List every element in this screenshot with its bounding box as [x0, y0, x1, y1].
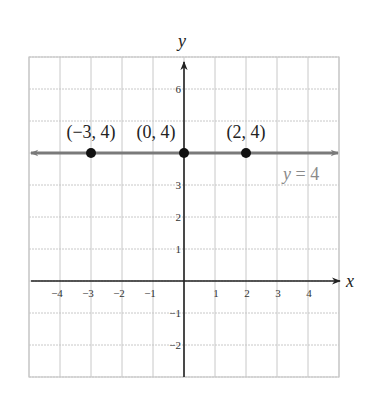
y-tick-label: 3	[176, 179, 182, 191]
point-label: (−3, 4)	[66, 122, 115, 143]
data-point	[86, 148, 96, 158]
y-axis-label: y	[176, 31, 186, 51]
coordinate-plane: −4−3−2−112346321−1−2 y = 4 (−3, 4)(0, 4)…	[0, 0, 376, 398]
line-label: y = 4	[281, 164, 319, 184]
y-tick-label: −1	[169, 307, 181, 319]
x-tick-label: −1	[144, 287, 156, 299]
axes	[31, 62, 340, 377]
y-tick-label: −2	[169, 339, 181, 351]
x-tick-label: 3	[275, 287, 281, 299]
x-tick-label: −3	[82, 287, 94, 299]
x-axis-label: x	[345, 271, 354, 291]
x-tick-label: −2	[113, 287, 125, 299]
x-tick-label: −4	[51, 287, 63, 299]
x-tick-label: 2	[244, 287, 250, 299]
data-point	[179, 148, 189, 158]
y-tick-label: 1	[176, 243, 182, 255]
y-tick-label: 2	[176, 211, 182, 223]
x-tick-label: 4	[306, 287, 312, 299]
y-tick-label: 6	[176, 83, 182, 95]
x-tick-label: 1	[213, 287, 219, 299]
data-point	[241, 148, 251, 158]
point-label: (0, 4)	[137, 122, 176, 143]
point-label: (2, 4)	[227, 122, 266, 143]
